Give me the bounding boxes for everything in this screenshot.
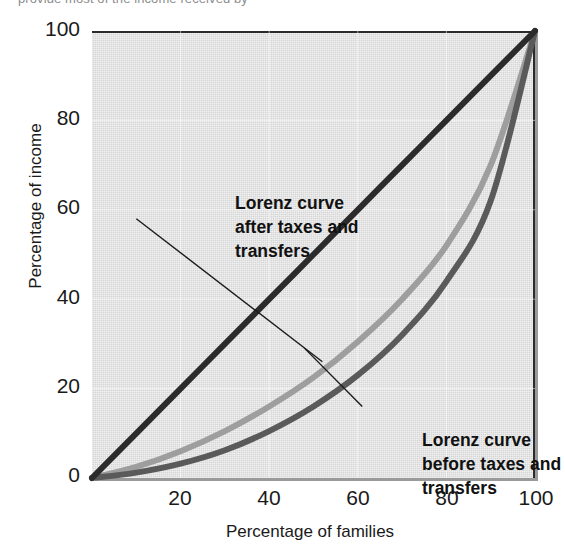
x-axis-title: Percentage of families: [180, 522, 440, 542]
annotation-before-line-1: Lorenz curve: [422, 428, 561, 452]
annotation-after-line-1: Lorenz curve: [235, 191, 359, 215]
annotation-before-line-2: before taxes and: [422, 452, 561, 476]
plot-frame: 100 80 60 40 20 0 20 40 60 80 100 Lorenz…: [92, 31, 535, 478]
annotation-before-line-3: transfers: [422, 476, 561, 500]
y-axis-title: Percentage of income: [26, 106, 46, 306]
xtick-label-60: 60: [328, 486, 388, 510]
ytick-label-100: 100: [24, 17, 80, 41]
ytick-label-0: 0: [24, 463, 80, 487]
annotation-after-line-3: transfers: [235, 239, 359, 263]
xtick-label-20: 20: [150, 486, 210, 510]
leader-line-before: [305, 348, 363, 406]
annotation-lorenz-before-taxes: Lorenz curve before taxes and transfers: [422, 428, 561, 500]
xtick-label-40: 40: [239, 486, 299, 510]
annotation-after-line-2: after taxes and: [235, 215, 359, 239]
annotation-lorenz-after-taxes: Lorenz curve after taxes and transfers: [235, 191, 359, 263]
ytick-label-20: 20: [24, 374, 80, 398]
